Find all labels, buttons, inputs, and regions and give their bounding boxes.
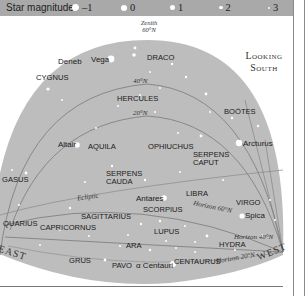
legend-item-mag-3: 3 — [268, 2, 278, 13]
star-deneb: Deneb — [58, 58, 82, 66]
star-spica: Spica — [245, 212, 265, 220]
legend-label: 2 — [226, 2, 231, 13]
star-dot-icon — [219, 6, 223, 10]
bottom-rule — [0, 286, 283, 287]
frame-border — [293, 0, 294, 296]
constellation-ara: ARA — [126, 242, 142, 250]
constellation-virgo: VIRGO — [236, 199, 260, 207]
star-vega: Vega — [91, 56, 109, 64]
constellation-hercules: HERCULES — [117, 95, 158, 103]
constellation-bootes: BOÖTES — [224, 108, 256, 116]
zenith-line1: Zenith — [138, 19, 160, 26]
constellation-aquila: AQUILA — [88, 143, 116, 151]
legend-item-mag-1: 1 — [170, 2, 183, 13]
latitude-40-label: 40°N — [133, 77, 147, 85]
zenith-line2: 60°N — [138, 26, 160, 33]
constellation-lupus: LUPUS — [154, 228, 179, 236]
magnitude-legend: Star magnitudes –1 0 1 2 3 — [0, 0, 293, 16]
constellation-scorpius: SCORPIUS — [143, 206, 183, 214]
star-alpha-centauri: α Centauri — [136, 262, 173, 270]
legend-item-mag-2: 2 — [219, 2, 231, 13]
legend-label: 3 — [273, 2, 278, 13]
constellation-draco: DRACO — [147, 54, 174, 62]
star-altair: Altair — [58, 141, 76, 149]
star-dot-icon — [170, 5, 175, 10]
frame-border — [304, 0, 305, 296]
orientation-line2: South — [236, 62, 292, 74]
constellation-libra: LIBRA — [186, 190, 208, 198]
constellation-centaurus: CENTAURUS — [174, 258, 221, 266]
constellation-ophiuchus: OPHIUCHUS — [148, 143, 194, 151]
legend-label: 1 — [178, 2, 183, 13]
constellation-sagittarius: SAGITTARIUS — [81, 213, 131, 221]
star-dot-icon — [121, 5, 127, 11]
orientation-line1: Looking — [236, 50, 292, 62]
constellation-cygnus: CYGNUS — [36, 74, 69, 82]
star-antares: Antares — [136, 195, 164, 203]
constellation-pavo: PAVO — [112, 262, 132, 270]
legend-item-mag-0: 0 — [121, 2, 135, 13]
legend-title: Star magnitudes — [6, 2, 79, 13]
star-dot-icon — [72, 4, 79, 11]
orientation-label: Looking South — [236, 50, 292, 74]
legend-label: 0 — [130, 2, 135, 13]
constellation-grus: GRUS — [69, 257, 91, 265]
constellation-aquarius: QUARIUS — [3, 220, 38, 228]
constellation-pegasus: GASUS — [2, 176, 29, 184]
constellation-capricornus: CAPRICORNUS — [40, 224, 96, 232]
legend-item-mag-minus1: –1 — [72, 2, 93, 13]
latitude-20-label: 20°N — [133, 109, 147, 117]
star-arcturus: Arcturus — [243, 140, 273, 148]
constellation-serpens-caput-2: CAPUT — [193, 159, 219, 167]
zenith-label: Zenith 60°N — [138, 19, 160, 33]
constellation-hydra: HYDRA — [219, 241, 246, 249]
legend-label: –1 — [82, 2, 93, 13]
constellation-serpens-cauda-2: CAUDA — [106, 178, 133, 186]
star-dot-icon — [268, 7, 270, 9]
